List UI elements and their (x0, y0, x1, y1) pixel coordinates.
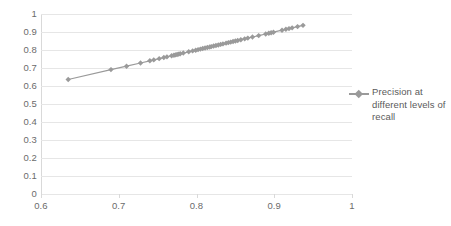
data-point-marker (151, 57, 156, 62)
y-tick-label: 1 (3, 9, 37, 19)
x-tick-label: 0.7 (99, 200, 139, 211)
x-tick-label: 0.9 (254, 200, 294, 211)
y-tick-label: 0.5 (3, 99, 37, 109)
legend-entry-label: Precision at different levels of recall (372, 86, 446, 124)
x-tick-label: 1 (332, 200, 372, 211)
x-tick-mark (119, 194, 120, 198)
y-tick-label: 0.3 (3, 135, 37, 145)
x-tick-mark (41, 194, 42, 198)
data-point-marker (279, 28, 284, 33)
y-tick-label: 0 (3, 189, 37, 199)
data-point-marker (156, 56, 161, 61)
data-series-line (41, 14, 352, 194)
data-point-marker (186, 49, 191, 54)
y-tick-label: 0.8 (3, 45, 37, 55)
data-point-marker (295, 24, 300, 29)
data-point-marker (147, 58, 152, 63)
y-axis-tick-labels: 00.10.20.30.40.50.60.70.80.91 (0, 0, 37, 226)
y-tick-label: 0.9 (3, 27, 37, 37)
y-tick-label: 0.2 (3, 153, 37, 163)
data-point-marker (108, 67, 113, 72)
data-point-marker (300, 23, 305, 28)
x-tick-label: 0.8 (177, 200, 217, 211)
data-point-marker (138, 60, 143, 65)
y-tick-label: 0.6 (3, 81, 37, 91)
x-tick-mark (274, 194, 275, 198)
chart-container: 00.10.20.30.40.50.60.70.80.91 0.60.70.80… (0, 0, 451, 226)
legend-series-marker-icon (349, 88, 369, 99)
x-tick-label: 0.6 (21, 200, 61, 211)
x-tick-mark (197, 194, 198, 198)
data-point-marker (250, 34, 255, 39)
chart-legend: Precision at different levels of recall (349, 86, 449, 124)
data-point-marker (256, 33, 261, 38)
y-tick-label: 0.7 (3, 63, 37, 73)
plot-area (41, 14, 352, 194)
y-tick-label: 0.4 (3, 117, 37, 127)
data-point-marker (124, 64, 129, 69)
y-tick-label: 0.1 (3, 171, 37, 181)
x-tick-mark (352, 194, 353, 198)
data-point-marker (66, 77, 71, 82)
